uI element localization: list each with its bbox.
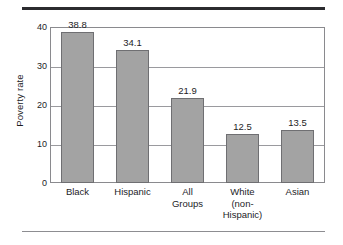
bar-value-label: 21.9	[157, 85, 218, 96]
bar-value-label: 38.8	[47, 19, 108, 30]
bottom-divider-rule	[22, 231, 325, 232]
bar-value-label: 13.5	[267, 117, 328, 128]
bar-value-label: 12.5	[212, 121, 273, 132]
bar-slot: 21.9	[171, 27, 204, 183]
x-category-label-line: (non-	[215, 198, 270, 210]
y-tick-label: 40	[7, 22, 47, 32]
y-tick-label: 30	[7, 61, 47, 71]
chart-page: Poverty rate 010203040 38.834.121.912.51…	[0, 0, 343, 245]
x-category-label-line: Black	[50, 186, 105, 198]
bar-slot: 12.5	[226, 27, 259, 183]
bar-slot: 13.5	[281, 27, 314, 183]
x-category-label-line: Hispanic	[105, 186, 160, 198]
x-category-label: AllGroups	[160, 186, 215, 209]
bar[interactable]	[61, 32, 94, 183]
x-category-label: Asian	[270, 186, 325, 198]
bar[interactable]	[116, 50, 149, 183]
x-category-label-line: Groups	[160, 198, 215, 210]
bars-layer: 38.834.121.912.513.5	[50, 27, 325, 183]
x-category-label-line: All	[160, 186, 215, 198]
x-category-label: Black	[50, 186, 105, 198]
top-divider-rule	[22, 7, 325, 10]
bar[interactable]	[281, 130, 314, 183]
y-tick-label: 10	[7, 139, 47, 149]
bar[interactable]	[226, 134, 259, 183]
bar-slot: 38.8	[61, 27, 94, 183]
x-category-label-line: Hispanic)	[215, 209, 270, 221]
y-tick-label: 0	[7, 178, 47, 188]
bar-slot: 34.1	[116, 27, 149, 183]
bar-value-label: 34.1	[102, 37, 163, 48]
bar[interactable]	[171, 98, 204, 183]
x-category-label-line: Asian	[270, 186, 325, 198]
x-category-label-line: White	[215, 186, 270, 198]
x-category-label: White(non-Hispanic)	[215, 186, 270, 221]
x-category-label: Hispanic	[105, 186, 160, 198]
y-tick-label: 20	[7, 100, 47, 110]
x-axis-category-labels: BlackHispanicAllGroupsWhite(non-Hispanic…	[50, 186, 325, 236]
